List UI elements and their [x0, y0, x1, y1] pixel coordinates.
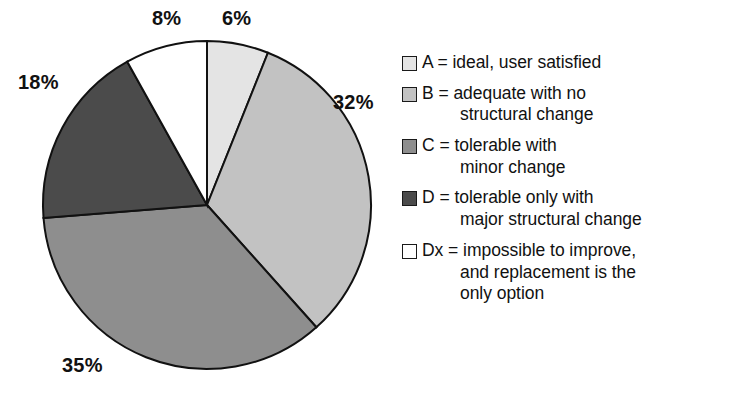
legend-label-c-line2: minor change	[422, 157, 565, 179]
legend-label-b-line2: structural change	[422, 104, 593, 126]
legend-label-dx-line2: and replacement is the	[422, 262, 636, 284]
slice-label-d: 18%	[18, 72, 59, 92]
legend-label-a-line1: A = ideal, user satisfied	[422, 52, 601, 72]
pie-chart-figure: 8% 6% 32% 35% 18% A = ideal, user satisf…	[0, 0, 737, 399]
legend-swatch-b-icon	[402, 87, 417, 102]
legend-label-dx-line3: only option	[422, 283, 636, 305]
legend-item-d[interactable]: D = tolerable only withmajor structural …	[402, 187, 735, 230]
legend-item-c[interactable]: C = tolerable withminor change	[402, 135, 735, 178]
legend-item-dx[interactable]: Dx = impossible to improve,and replaceme…	[402, 240, 735, 305]
legend-label-b-line1: B = adequate with no	[422, 83, 586, 103]
slice-label-dx: 8%	[152, 8, 181, 28]
legend-swatch-a-icon	[402, 56, 417, 71]
pie-plot-area: 8% 6% 32% 35% 18%	[0, 0, 400, 399]
legend-swatch-d-icon	[402, 191, 417, 206]
legend-label-c-line1: C = tolerable with	[422, 135, 557, 155]
legend-item-b[interactable]: B = adequate with nostructural change	[402, 83, 735, 126]
legend-label-b: B = adequate with nostructural change	[422, 83, 593, 126]
slice-label-b: 32%	[333, 92, 374, 112]
legend-label-d-line2: major structural change	[422, 209, 642, 231]
legend-swatch-c-icon	[402, 139, 417, 154]
pie-svg	[0, 0, 400, 399]
legend-swatch-dx-icon	[402, 244, 417, 259]
chart-legend: A = ideal, user satisfied B = adequate w…	[402, 52, 735, 314]
legend-label-dx-line1: Dx = impossible to improve,	[422, 240, 636, 260]
legend-label-dx: Dx = impossible to improve,and replaceme…	[422, 240, 636, 305]
legend-item-a[interactable]: A = ideal, user satisfied	[402, 52, 735, 74]
slice-label-a: 6%	[222, 8, 251, 28]
legend-label-a: A = ideal, user satisfied	[422, 52, 601, 74]
legend-label-d: D = tolerable only withmajor structural …	[422, 187, 642, 230]
legend-label-d-line1: D = tolerable only with	[422, 187, 594, 207]
slice-label-c: 35%	[62, 355, 103, 375]
legend-label-c: C = tolerable withminor change	[422, 135, 565, 178]
